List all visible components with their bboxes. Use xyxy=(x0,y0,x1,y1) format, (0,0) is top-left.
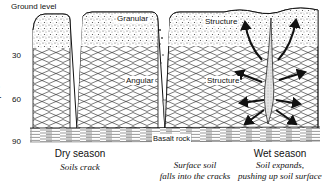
dry-season-block xyxy=(33,12,158,130)
depth-tick-60: 60 xyxy=(3,95,21,104)
structure-mid-label: Structure xyxy=(206,76,240,85)
depth-tick-30: 30 xyxy=(3,51,21,60)
granular-label: Granular xyxy=(116,14,149,23)
dry-season-title: Dry season xyxy=(45,148,115,159)
depth-axis-title: Depth, cm xyxy=(0,74,1,108)
wet-season-block xyxy=(165,8,318,130)
wet-season-line-2: pushing up soil surface xyxy=(225,171,331,182)
basalt-rock-label: Basalt rock xyxy=(152,134,191,143)
dry-season-description: Soils crack xyxy=(45,162,115,173)
wet-season-line-1: Soil expands, xyxy=(225,160,331,171)
structure-top-label: Structure xyxy=(204,17,238,26)
wet-season-title: Wet season xyxy=(235,148,325,159)
angular-label: Angular xyxy=(125,76,155,85)
ground-level-label: Ground level xyxy=(11,2,56,11)
depth-tick-90: 90 xyxy=(3,137,21,146)
wet-season-description: Soil expands, pushing up soil surface xyxy=(225,160,331,182)
